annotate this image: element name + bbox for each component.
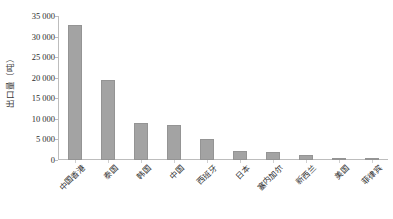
x-axis-category-label: 中国: [168, 164, 185, 181]
bar: [200, 139, 214, 160]
y-axis-tick-label: 5 000: [36, 135, 55, 144]
y-axis-tick-label: 30 000: [32, 32, 55, 41]
y-axis-tick-label: 25 000: [32, 53, 55, 62]
y-axis-tick-labels: 05 00010 00015 00020 00025 00030 00035 0…: [16, 0, 58, 165]
bar-chart: 出口量（吨） 05 00010 00015 00020 00025 00030 …: [0, 0, 393, 219]
bar: [167, 125, 181, 160]
x-axis-category-label: 泰国: [102, 164, 119, 181]
bars-layer: [58, 16, 388, 160]
y-axis-tick-label: 10 000: [32, 115, 55, 124]
y-axis-tick-label: 35 000: [32, 12, 55, 21]
x-axis-category-label: 美国: [333, 164, 350, 181]
bar: [266, 152, 280, 160]
y-axis-tick-label: 15 000: [32, 94, 55, 103]
y-axis-tick-label: 20 000: [32, 73, 55, 82]
x-axis-category-label: 西班牙: [196, 164, 219, 187]
x-axis-category-label: 菲律宾: [361, 164, 384, 187]
y-axis-title-text: 出口量（吨）: [6, 54, 15, 108]
x-axis-category-label: 日本: [234, 164, 251, 181]
x-axis-category-label: 韩国: [135, 164, 152, 181]
x-axis-category-labels: 中国香港泰国韩国中国西班牙日本塞内加尔新西兰美国菲律宾: [58, 160, 393, 219]
plot-area: [58, 16, 388, 160]
bar: [134, 123, 148, 160]
bar: [68, 25, 82, 160]
bar: [101, 80, 115, 160]
bar: [233, 151, 247, 160]
x-axis-category-label: 新西兰: [295, 164, 318, 187]
x-axis-category-label: 中国香港: [58, 164, 86, 192]
x-axis-category-label: 塞内加尔: [256, 164, 284, 192]
